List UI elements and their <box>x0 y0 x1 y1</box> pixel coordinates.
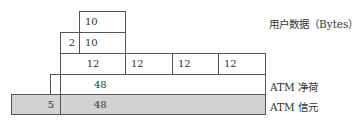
overhead-size: 2 <box>69 38 75 48</box>
user-data-label: 用户数据（Bytes） <box>269 16 354 31</box>
segment-box-4: 12 <box>218 53 266 75</box>
user-data-size: 10 <box>85 17 98 27</box>
segment-size: 12 <box>87 59 100 69</box>
segment-box-2: 12 <box>125 53 173 75</box>
segment-box-3: 12 <box>172 53 219 75</box>
segment-size: 12 <box>224 59 237 69</box>
data-size: 10 <box>85 38 98 48</box>
cell-header-box: 5 <box>11 94 61 115</box>
overhead-box: 2 <box>60 32 80 54</box>
cell-header-size: 5 <box>48 100 54 110</box>
payload-size: 48 <box>94 80 107 90</box>
cell-payload-box: 48 <box>60 94 266 115</box>
atm-payload-label: ATM 净荷 <box>270 79 318 94</box>
atm-cell-label: ATM 信元 <box>270 99 318 114</box>
segment-size: 12 <box>178 59 191 69</box>
payload-box: 48 <box>60 74 266 95</box>
segment-box-1: 12 <box>60 53 126 75</box>
cell-payload-size: 48 <box>94 100 107 110</box>
segment-size: 12 <box>131 59 144 69</box>
user-data-box: 10 <box>79 11 126 33</box>
data-box: 10 <box>79 32 126 54</box>
